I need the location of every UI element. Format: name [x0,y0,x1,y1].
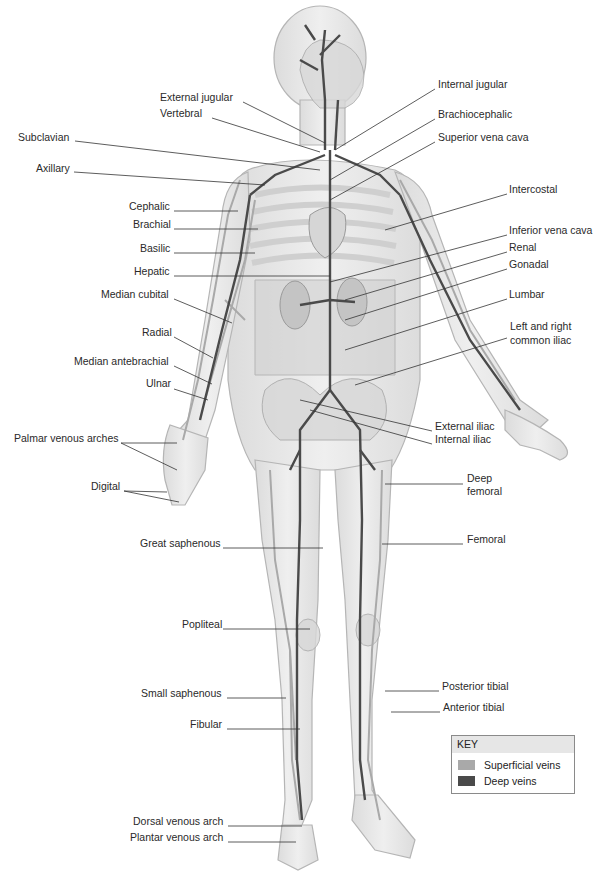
label-median-cubital: Median cubital [101,288,169,300]
label-dorsal-venous-arch: Dorsal venous arch [133,815,223,827]
label-popliteal: Popliteal [182,618,222,630]
legend-label: Superficial veins [484,757,560,773]
label-renal: Renal [509,241,536,253]
label-axillary: Axillary [36,162,70,174]
label-basilic: Basilic [140,242,170,254]
label-deep-femoral-line1: Deep [467,472,492,484]
label-cephalic: Cephalic [129,200,170,212]
label-external-iliac: External iliac [435,420,495,432]
label-common-iliac-line1: Left and right [510,320,571,332]
label-digital: Digital [91,480,120,492]
label-small-saphenous: Small saphenous [141,687,222,699]
legend-item-deep: Deep veins [452,773,574,789]
label-anterior-tibial: Anterior tibial [443,701,504,713]
label-median-antebrachial: Median antebrachial [74,355,169,367]
label-palmar-venous-arches: Palmar venous arches [14,432,118,444]
label-internal-jugular: Internal jugular [438,78,507,90]
legend-title: KEY [452,736,574,753]
legend-key: KEY Superficial veins Deep veins [451,735,575,794]
label-brachial: Brachial [133,218,171,230]
label-external-jugular: External jugular [160,91,233,103]
label-common-iliac-line2: common iliac [510,334,571,346]
label-ulnar: Ulnar [146,377,171,389]
label-deep-femoral-line2: femoral [467,485,502,497]
label-fibular: Fibular [190,718,222,730]
superficial-swatch-icon [458,760,475,770]
label-internal-iliac: Internal iliac [435,433,491,445]
label-gonadal: Gonadal [509,258,549,270]
label-brachiocephalic: Brachiocephalic [438,108,512,120]
deep-swatch-icon [458,776,475,786]
label-lumbar: Lumbar [509,288,545,300]
legend-item-superficial: Superficial veins [452,757,574,773]
label-intercostal: Intercostal [509,183,557,195]
label-plantar-venous-arch: Plantar venous arch [130,831,223,843]
label-vertebral: Vertebral [160,107,202,119]
label-superior-vena-cava: Superior vena cava [438,131,528,143]
label-great-saphenous: Great saphenous [140,537,221,549]
label-hepatic: Hepatic [134,265,170,277]
label-femoral: Femoral [467,533,506,545]
label-posterior-tibial: Posterior tibial [442,680,509,692]
legend-label: Deep veins [484,773,537,789]
label-subclavian: Subclavian [18,131,69,143]
label-inferior-vena-cava: Inferior vena cava [509,224,592,236]
label-radial: Radial [142,326,172,338]
